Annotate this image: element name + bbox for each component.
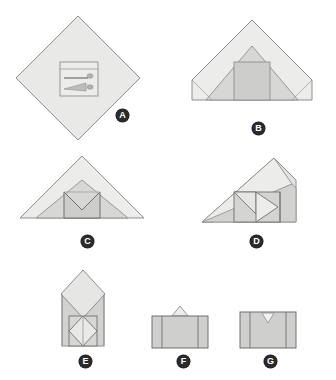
detail-knob-1 (87, 74, 93, 78)
panel-a (14, 12, 144, 144)
panel-g-figure (236, 304, 300, 352)
panel-f-figure (148, 300, 212, 352)
panel-b (188, 16, 316, 116)
panel-e (52, 268, 114, 350)
panel-d (196, 152, 312, 232)
detail-knob-2 (87, 85, 93, 89)
panel-e-figure (52, 268, 114, 350)
panel-label-b: B (252, 122, 265, 135)
panel-label-c: C (81, 235, 94, 248)
panel-f (148, 300, 212, 352)
body-rectangle (152, 316, 208, 348)
panel-c-figure (16, 152, 148, 232)
panel-c (16, 152, 148, 232)
folding-steps-diagram: A B C D (0, 0, 336, 380)
panel-label-f: F (177, 355, 190, 368)
panel-d-figure (196, 152, 312, 232)
center-square (234, 62, 270, 100)
panel-label-d: D (250, 235, 263, 248)
top-peak (172, 306, 188, 316)
panel-a-figure (14, 12, 144, 144)
panel-label-a: A (116, 109, 129, 122)
panel-label-g: G (264, 355, 277, 368)
center-detail-panel (60, 62, 98, 96)
panel-b-figure (188, 16, 316, 116)
panel-label-e: E (79, 355, 92, 368)
panel-g (236, 304, 300, 352)
